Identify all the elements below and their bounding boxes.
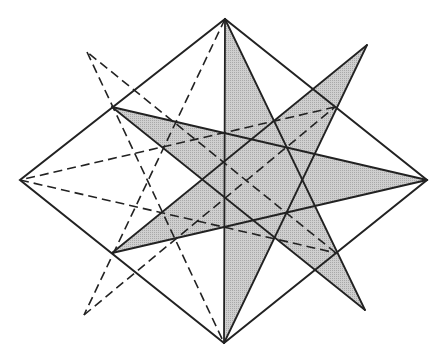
shaded-seven-point-star [112,19,427,343]
shaded-star-fill [112,19,427,343]
solid-edge-bottom-top [224,19,225,343]
diagram-canvas [0,0,445,362]
star-diamond-figure [0,0,445,362]
